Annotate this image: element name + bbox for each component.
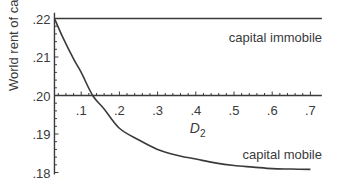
x-tick-label: .5	[229, 103, 240, 118]
chart-plot: .22.21.20.19.18.1.2.3.4.5.6.7D2 capital …	[0, 0, 340, 187]
x-tick-label: .4	[190, 103, 201, 118]
y-axis-label: World rent of capital	[4, 0, 22, 91]
y-tick-label: .18	[32, 166, 50, 181]
x-tick-label: .7	[305, 103, 316, 118]
y-tick-label: .20	[32, 89, 50, 104]
label-capital-mobile: capital mobile	[243, 147, 323, 162]
chart: .22.21.20.19.18.1.2.3.4.5.6.7D2 capital …	[0, 0, 340, 187]
y-tick-label: .19	[32, 127, 50, 142]
x-tick-label: .6	[267, 103, 278, 118]
x-axis-label: D2	[190, 120, 206, 139]
x-tick-label: .1	[76, 103, 87, 118]
x-tick-label: .2	[114, 103, 125, 118]
y-tick-label: .21	[32, 50, 50, 65]
label-capital-immobile: capital immobile	[229, 30, 322, 45]
x-tick-label: .3	[152, 103, 163, 118]
y-tick-label: .22	[32, 12, 50, 27]
